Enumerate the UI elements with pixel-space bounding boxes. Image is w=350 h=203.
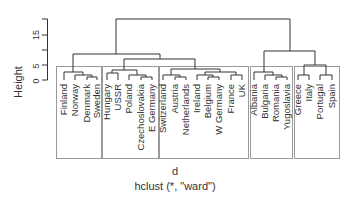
leaf-label: Finland (58, 84, 69, 115)
subtitle: hclust (*, "ward") (0, 180, 350, 192)
y-tick-5: 5 (31, 63, 41, 68)
leaf-label: Yugoslavia (281, 83, 292, 130)
leaf-label: Austria (169, 83, 180, 113)
leaf-labels: Finland Norway Denmark Sweden Hungary US… (58, 83, 337, 150)
leaf-label: E Germany (146, 84, 157, 132)
leaf-label: Spain (326, 84, 337, 108)
leaf-label: France (225, 84, 236, 114)
leaf-label: UK (236, 83, 247, 97)
leaf-label: Italy (303, 84, 314, 102)
leaf-label: W Germany (213, 84, 224, 135)
leaf-label: Belgium (202, 84, 213, 118)
leaf-label: Ireland (191, 84, 202, 113)
leaf-label: Czechoslovakia (135, 83, 146, 150)
y-tick-0: 0 (31, 78, 41, 83)
leaf-label: Hungary (101, 84, 112, 120)
leaf-label: Greece (292, 84, 303, 115)
leaf-label: Netherlands (180, 84, 191, 135)
leaf-label: Albania (248, 83, 259, 115)
leaf-label: Switzerland (157, 84, 168, 133)
y-tick-labels: 0 5 15 (31, 30, 41, 84)
leaf-label: Romania (270, 83, 281, 122)
leaf-label: Portugal (314, 84, 325, 119)
leaf-label: Norway (69, 84, 80, 116)
x-axis-label: d (0, 165, 350, 177)
dendrogram-branches (64, 19, 332, 80)
leaf-label: Poland (123, 84, 134, 114)
y-axis (42, 19, 48, 80)
leaf-label: Bulgaria (259, 83, 270, 119)
y-axis-label: Height (12, 66, 24, 98)
y-tick-15: 15 (31, 30, 41, 40)
leaf-label: USSR (112, 84, 123, 111)
